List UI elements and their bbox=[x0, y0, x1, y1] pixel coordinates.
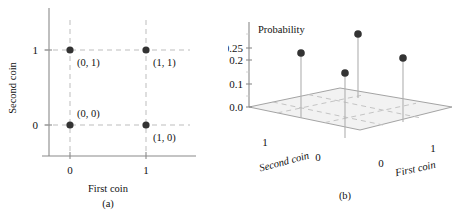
x-tick-label-0: 0 bbox=[67, 164, 73, 176]
y-tick-label-1: 1 bbox=[33, 44, 39, 56]
z-tick-label-0-0: 0.0 bbox=[229, 101, 243, 113]
data-point-1-0 bbox=[399, 54, 407, 62]
data-point-0-0 bbox=[66, 121, 73, 128]
point-label-0-0: (0, 0) bbox=[77, 108, 100, 120]
figure-container: (0, 1) (1, 1) (0, 0) (1, 0) 1 0 0 1 Firs… bbox=[0, 0, 457, 210]
y-tick-label-0: 0 bbox=[315, 151, 321, 163]
panel-b-caption: (b) bbox=[339, 190, 352, 202]
z-axis-title: Probability bbox=[258, 24, 305, 35]
point-label-1-1: (1, 1) bbox=[153, 57, 176, 69]
data-point-0-1 bbox=[297, 49, 305, 57]
x-tick-label-1: 1 bbox=[143, 164, 149, 176]
data-point-0-0 bbox=[341, 69, 349, 77]
base-plane bbox=[249, 88, 452, 130]
z-tick-label-0-1: 0.1 bbox=[229, 78, 243, 90]
y-tick-label-0: 0 bbox=[33, 119, 39, 131]
data-point-0-1 bbox=[66, 46, 73, 53]
data-point-1-0 bbox=[142, 121, 149, 128]
y-axis-title: Second coin bbox=[7, 61, 18, 113]
x-axis-title: First coin bbox=[393, 159, 436, 179]
data-point-1-1 bbox=[142, 46, 149, 53]
panel-a-svg: (0, 1) (1, 1) (0, 0) (1, 0) 1 0 0 1 Firs… bbox=[0, 0, 228, 210]
data-point-1-1 bbox=[354, 30, 362, 38]
point-label-1-0: (1, 0) bbox=[153, 132, 176, 144]
x-axis-title: First coin bbox=[88, 183, 129, 194]
z-tick-label-0-25: 0.25 bbox=[228, 42, 244, 54]
panel-a-scatter-2d: (0, 1) (1, 1) (0, 0) (1, 0) 1 0 0 1 Firs… bbox=[0, 0, 228, 210]
panel-b-svg: 0.25 0.2 0.1 0.0 Probability 1 0 0 1 Sec… bbox=[228, 0, 457, 210]
x-tick-label-0: 0 bbox=[378, 157, 384, 169]
y-axis-title: Second coin bbox=[258, 150, 310, 174]
z-tick-label-0-2: 0.2 bbox=[229, 54, 243, 66]
panel-b-stem-3d: 0.25 0.2 0.1 0.0 Probability 1 0 0 1 Sec… bbox=[228, 0, 457, 210]
panel-a-caption: (a) bbox=[102, 198, 114, 210]
x-tick-label-1: 1 bbox=[430, 142, 436, 154]
y-tick-label-1: 1 bbox=[262, 136, 268, 148]
point-label-0-1: (0, 1) bbox=[77, 57, 100, 69]
